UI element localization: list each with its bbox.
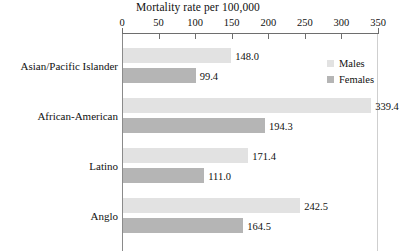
chart-title: Mortality rate per 100,000 xyxy=(136,1,260,13)
bar-row: 171.4 xyxy=(123,148,379,163)
category-label: African-American xyxy=(0,110,118,122)
bar-value-label: 194.3 xyxy=(265,120,293,131)
category-label: Anglo xyxy=(0,210,118,222)
bar-row: 194.3 xyxy=(123,118,379,133)
mortality-rate-bar-chart: Mortality rate per 100,000 0501001502002… xyxy=(0,0,415,251)
x-axis-tick-label: 300 xyxy=(334,17,350,28)
bar-value-label: 111.0 xyxy=(204,170,231,181)
legend-swatch-icon xyxy=(327,60,334,67)
bar-group: 242.5164.5 xyxy=(123,198,379,248)
bar-value-label: 99.4 xyxy=(196,70,218,81)
bar-row: 164.5 xyxy=(123,218,379,233)
bar-group: 171.4111.0 xyxy=(123,148,379,198)
x-axis-tick-label: 50 xyxy=(153,17,164,28)
bar-value-label: 164.5 xyxy=(243,220,271,231)
x-axis-tick-label: 100 xyxy=(187,17,203,28)
bar-value-label: 339.4 xyxy=(371,100,399,111)
bar-females xyxy=(123,218,243,233)
bar-males xyxy=(123,48,231,63)
bar-row: 111.0 xyxy=(123,168,379,183)
x-axis-tick-label: 150 xyxy=(224,17,240,28)
bar-males xyxy=(123,148,248,163)
x-axis-tick-label: 350 xyxy=(370,17,386,28)
legend-item: Females xyxy=(327,73,374,86)
chart-legend: MalesFemales xyxy=(327,57,374,89)
category-axis-labels: Asian/Pacific IslanderAfrican-AmericanLa… xyxy=(0,34,118,251)
bar-females xyxy=(123,68,196,83)
bar-row: 242.5 xyxy=(123,198,379,213)
legend-label: Females xyxy=(339,74,374,85)
bar-males xyxy=(123,198,300,213)
bar-value-label: 148.0 xyxy=(231,50,259,61)
bar-row: 339.4 xyxy=(123,98,379,113)
legend-label: Males xyxy=(339,58,365,69)
bar-value-label: 242.5 xyxy=(300,200,328,211)
bar-females xyxy=(123,168,204,183)
bar-females xyxy=(123,118,265,133)
bar-males xyxy=(123,98,371,113)
x-axis-tick-label: 250 xyxy=(297,17,313,28)
legend-swatch-icon xyxy=(327,76,334,83)
category-label: Asian/Pacific Islander xyxy=(0,60,118,72)
x-axis-tick-label: 0 xyxy=(119,17,124,28)
x-axis-tick-label: 200 xyxy=(260,17,276,28)
legend-item: Males xyxy=(327,57,374,70)
bar-value-label: 171.4 xyxy=(248,150,276,161)
bar-group: 339.4194.3 xyxy=(123,98,379,148)
category-label: Latino xyxy=(0,160,118,172)
